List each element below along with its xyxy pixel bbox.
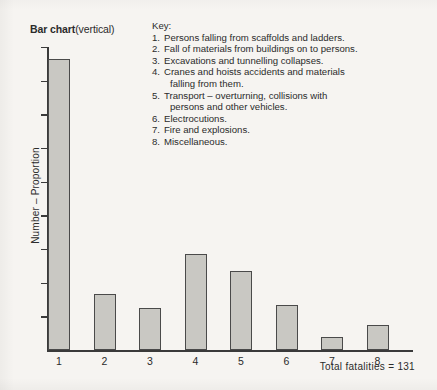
bar-5 xyxy=(230,271,252,350)
bar-8 xyxy=(367,325,389,350)
chart-page: Bar chart(vertical) Key: 1. Persons fall… xyxy=(0,0,437,390)
y-tick xyxy=(41,215,47,216)
x-label-4: 4 xyxy=(184,355,208,367)
bar-3 xyxy=(139,308,161,350)
y-tick xyxy=(41,182,47,183)
y-tick xyxy=(41,47,47,48)
x-label-5: 5 xyxy=(229,355,253,367)
x-label-3: 3 xyxy=(138,355,162,367)
plot-area: Number – Proportion 12345678 xyxy=(0,0,437,390)
y-tick xyxy=(41,283,47,284)
y-axis-label: Number – Proportion xyxy=(30,116,41,276)
y-tick xyxy=(41,81,47,82)
x-label-6: 6 xyxy=(275,355,299,367)
x-axis xyxy=(47,350,413,352)
bar-2 xyxy=(94,294,116,350)
bar-7 xyxy=(321,337,343,350)
bar-1 xyxy=(48,59,70,350)
bar-6 xyxy=(276,305,298,350)
x-label-2: 2 xyxy=(93,355,117,367)
bar-4 xyxy=(185,254,207,350)
y-tick xyxy=(41,249,47,250)
y-tick xyxy=(41,316,47,317)
y-tick xyxy=(41,148,47,149)
x-label-1: 1 xyxy=(47,355,71,367)
total-fatalities-note: Total fatalities = 131 xyxy=(320,361,415,372)
y-tick xyxy=(41,114,47,115)
